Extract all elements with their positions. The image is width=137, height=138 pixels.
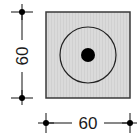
width-dimension-label: 60 xyxy=(79,114,98,133)
dimension-dot-top xyxy=(19,9,25,15)
dimension-dot-right xyxy=(127,120,133,126)
vertical-dimension: 60 xyxy=(11,4,33,105)
dimension-dot-bottom xyxy=(19,95,25,101)
horizontal-dimension: 60 xyxy=(38,113,137,133)
dimension-dot-left xyxy=(43,120,49,126)
dimension-diagram: 60 60 xyxy=(0,0,137,138)
center-dot xyxy=(81,48,95,62)
height-dimension-label: 60 xyxy=(13,47,32,66)
